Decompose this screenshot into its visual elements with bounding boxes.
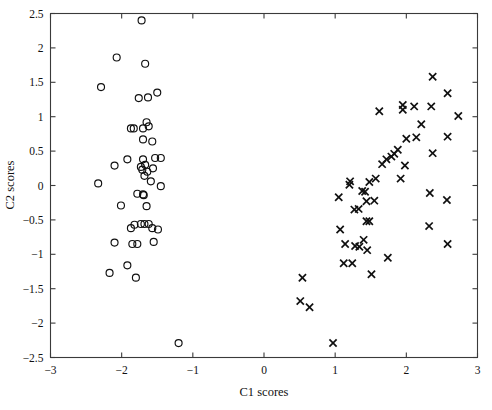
data-point-cross-6	[376, 108, 383, 115]
data-point-cross-19	[397, 175, 404, 182]
data-point-cross-35	[337, 226, 344, 233]
y-tick-label-6: 0.5	[29, 145, 44, 157]
axis-tick-labels-layer: −3−2−10123−2.5−2−1.5−1−0.500.511.522.5	[23, 8, 481, 376]
data-point-circle-5	[135, 95, 142, 102]
data-point-cross-12	[429, 150, 436, 157]
data-point-cross-29	[426, 189, 433, 196]
data-point-cross-41	[364, 247, 371, 254]
data-point-circle-47	[175, 340, 182, 347]
x-tick-label-4: 1	[332, 364, 338, 376]
data-point-cross-28	[371, 197, 378, 204]
x-tick-label-5: 2	[403, 364, 409, 376]
data-point-cross-46	[368, 271, 375, 278]
data-point-circle-27	[157, 183, 164, 190]
data-point-cross-17	[379, 161, 386, 168]
data-point-cross-45	[349, 260, 356, 267]
y-tick-label-8: 1.5	[29, 76, 44, 88]
data-point-circle-40	[111, 239, 118, 246]
data-point-cross-26	[335, 194, 342, 201]
data-point-cross-38	[342, 240, 349, 247]
data-point-circle-26	[95, 180, 102, 187]
data-point-cross-9	[403, 135, 410, 142]
data-point-cross-1	[444, 90, 451, 97]
data-point-cross-42	[444, 240, 451, 247]
series-2-cross	[297, 73, 462, 346]
y-tick-label-10: 2.5	[29, 8, 44, 20]
data-point-cross-3	[399, 106, 406, 113]
data-point-circle-1	[113, 54, 120, 61]
data-point-circle-45	[106, 269, 113, 276]
data-point-circle-13	[149, 138, 156, 145]
data-point-cross-4	[411, 103, 418, 110]
data-point-cross-50	[329, 339, 336, 346]
data-point-circle-43	[150, 238, 157, 245]
y-tick-label-2: −1.5	[23, 283, 44, 295]
data-point-cross-48	[297, 297, 304, 304]
data-point-circle-12	[140, 136, 147, 143]
y-tick-label-9: 2	[38, 42, 44, 54]
data-point-circle-44	[124, 262, 131, 269]
data-point-cross-10	[413, 134, 420, 141]
data-point-cross-0	[429, 73, 436, 80]
data-point-cross-7	[455, 112, 462, 119]
x-tick-label-3: 0	[261, 364, 267, 376]
data-point-cross-47	[299, 274, 306, 281]
data-point-cross-21	[366, 178, 373, 185]
data-point-cross-43	[384, 254, 391, 261]
data-point-cross-30	[443, 196, 450, 203]
data-point-circle-31	[117, 202, 124, 209]
data-point-circle-42	[134, 240, 141, 247]
data-point-circle-2	[142, 60, 149, 67]
plot-canvas: −3−2−10123−2.5−2−1.5−1−0.500.511.522.5 C…	[0, 0, 492, 410]
data-point-cross-36	[426, 222, 433, 229]
data-point-circle-46	[132, 274, 139, 281]
x-tick-label-1: −2	[116, 364, 128, 376]
y-tick-label-4: −0.5	[23, 214, 44, 226]
data-point-circle-32	[143, 203, 150, 210]
axis-ticks-layer	[51, 14, 478, 358]
y-tick-label-1: −2	[31, 317, 43, 329]
y-tick-label-5: 0	[38, 180, 44, 192]
data-point-circle-6	[145, 94, 152, 101]
data-point-circle-18	[111, 162, 118, 169]
data-point-cross-8	[418, 121, 425, 128]
data-point-cross-49	[306, 304, 313, 311]
data-point-circle-3	[98, 84, 105, 91]
plot-frame	[51, 14, 478, 358]
x-tick-label-0: −3	[44, 364, 56, 376]
scatter-plot-figure: −3−2−10123−2.5−2−1.5−1−0.500.511.522.5 C…	[0, 0, 492, 410]
y-tick-label-0: −2.5	[23, 352, 44, 364]
data-point-circle-25	[147, 178, 154, 185]
y-tick-label-3: −1	[31, 248, 43, 260]
data-point-circle-0	[138, 17, 145, 24]
x-tick-label-2: −1	[187, 364, 199, 376]
data-point-cross-37	[360, 236, 367, 243]
data-point-circle-4	[154, 89, 161, 96]
x-tick-label-6: 3	[475, 364, 481, 376]
x-axis-title: C1 scores	[240, 385, 289, 399]
data-point-cross-20	[372, 175, 379, 182]
data-point-cross-5	[428, 103, 435, 110]
data-point-cross-27	[363, 198, 370, 205]
y-tick-label-7: 1	[38, 111, 44, 123]
y-axis-title: C2 scores	[3, 160, 17, 209]
data-point-cross-18	[401, 162, 408, 169]
series-1-circle	[95, 17, 182, 347]
data-points-layer	[95, 17, 462, 347]
data-point-cross-11	[444, 133, 451, 140]
data-point-cross-44	[340, 260, 347, 267]
axes-layer	[51, 14, 478, 358]
data-point-circle-14	[124, 156, 131, 163]
